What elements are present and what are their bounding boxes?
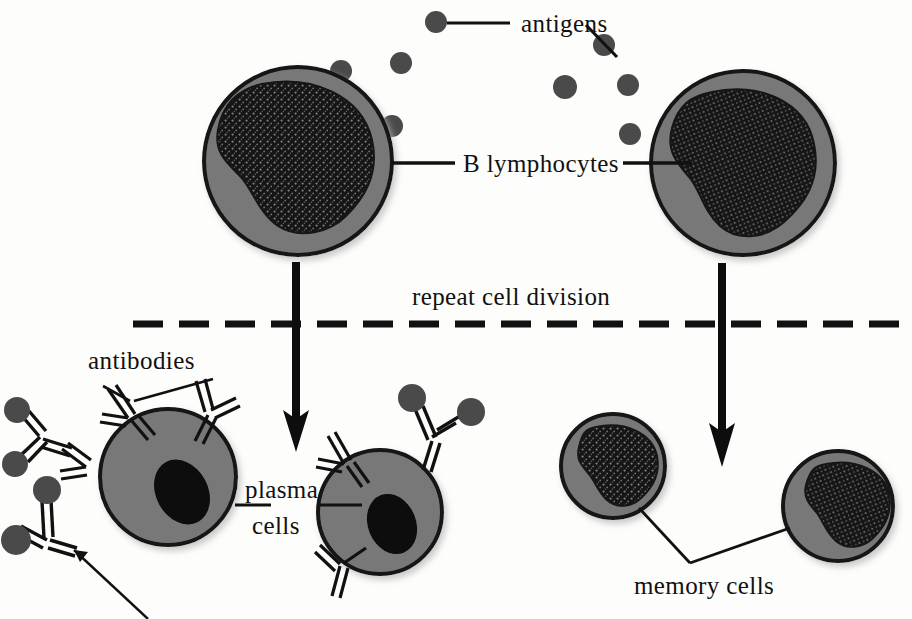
antigen-dot [398,384,426,412]
antigen-dot [425,11,447,33]
b-lymphocyte-left [204,67,392,255]
antibody-pointer-leader [74,550,148,619]
antibody-antigen-complex [2,397,72,477]
plasma-cells-label-line1: plasma [245,476,318,503]
antibodies-label: antibodies [88,347,195,374]
immunology-diagram: antigens B lymphocytes repeat cell divis… [0,0,912,619]
antigen-dot [2,451,28,477]
arrow-right-differentiation [709,263,735,467]
memory-cell-right [783,451,893,561]
memory-cells-leader-left [639,508,690,563]
antigen-dot [553,75,577,99]
antibody-icon [60,443,91,479]
antigen-dot [1,525,31,555]
plasma-cells-label-line2: cells [252,512,300,539]
antigen-dot [390,52,412,74]
repeat-cell-division-label: repeat cell division [412,283,610,310]
antibody-antigen-complex [1,476,77,556]
antigen-dot [619,123,641,145]
memory-cells-leader-right [690,528,790,563]
memory-cells-label: memory cells [634,572,774,599]
antigen-dot [33,476,61,504]
plasma-cell-left [100,409,236,545]
antigen-dot [4,397,30,423]
antigen-dot [457,398,485,426]
memory-cell-left [561,414,665,518]
diagram-canvas: antigens B lymphocytes repeat cell divis… [0,0,912,619]
arrow-left-differentiation [283,262,309,452]
antigens-label: antigens [521,10,608,37]
b-lymphocytes-label: B lymphocytes [463,150,619,177]
antigen-dot [617,74,639,96]
